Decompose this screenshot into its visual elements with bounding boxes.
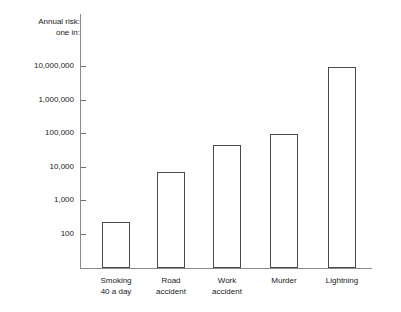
y-tick-mark <box>81 133 86 134</box>
y-tick-mark <box>81 167 86 168</box>
bar <box>270 134 298 268</box>
x-axis-label: Work accident <box>197 276 257 297</box>
y-tick-mark <box>81 200 86 201</box>
y-axis-line <box>80 14 81 268</box>
y-tick-label-text: 100 <box>0 230 74 238</box>
y-tick-label-text: 1,000,000 <box>0 96 74 104</box>
y-tick-mark <box>81 234 86 235</box>
bar-chart: Annual risk: one in: 10,000,0001,000,000… <box>0 0 401 312</box>
bar <box>328 67 356 269</box>
x-axis-label: Lightning <box>312 276 372 287</box>
x-axis-line <box>80 268 372 269</box>
bar <box>157 172 185 268</box>
y-axis-title: Annual risk: one in: <box>18 16 80 38</box>
y-tick-label-text: 10,000 <box>0 163 74 171</box>
bar <box>102 222 130 268</box>
y-tick-label-text: 10,000,000 <box>0 62 74 70</box>
y-tick-label-text: 100,000 <box>0 129 74 137</box>
x-axis-label: Road accident <box>141 276 201 297</box>
y-tick-mark <box>81 100 86 101</box>
y-tick-mark <box>81 66 86 67</box>
bar <box>213 145 241 268</box>
y-tick-label-text: 1,000 <box>0 196 74 204</box>
x-axis-label: Smoking 40 a day <box>86 276 146 297</box>
x-axis-label: Murder <box>254 276 314 287</box>
